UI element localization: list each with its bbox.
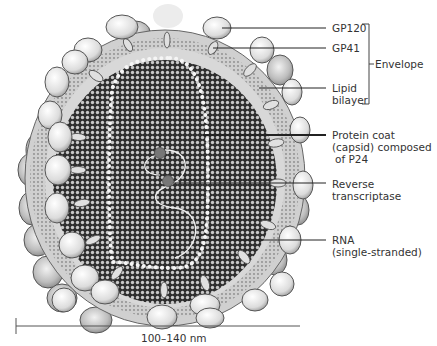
label-rt-line2: transcriptase <box>332 190 401 202</box>
reverse-transcriptase-2 <box>163 176 174 187</box>
label-lipid-line1: Lipid <box>332 82 368 94</box>
label-gp120: GP120 <box>332 22 367 34</box>
label-capsid-line2: (capsid) composed <box>332 141 432 153</box>
label-rt-line1: Reverse <box>332 178 401 190</box>
label-protein-coat: Protein coat (capsid) composed of P24 <box>332 129 432 165</box>
hiv-diagram <box>0 0 437 346</box>
label-rna-line2: (single-stranded) <box>332 246 422 258</box>
label-envelope: Envelope <box>375 58 423 70</box>
label-reverse-transcriptase: Reverse transcriptase <box>332 178 401 202</box>
label-gp41: GP41 <box>332 42 360 54</box>
scale-label: 100–140 nm <box>141 332 207 344</box>
label-capsid-line3: of P24 <box>332 153 432 165</box>
label-rna: RNA (single-stranded) <box>332 234 422 258</box>
label-capsid-line1: Protein coat <box>332 129 432 141</box>
label-lipid-bilayer: Lipid bilayer <box>332 82 368 106</box>
label-lipid-line2: bilayer <box>332 94 368 106</box>
reverse-transcriptase-1 <box>155 148 166 159</box>
label-rna-line1: RNA <box>332 234 422 246</box>
